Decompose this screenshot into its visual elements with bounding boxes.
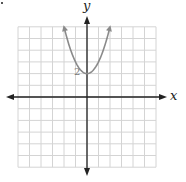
y-axis-label: y <box>83 0 90 13</box>
curve-right-arrow-icon <box>106 25 112 32</box>
curve-left-arrow-icon <box>62 25 68 32</box>
axes <box>6 16 167 176</box>
coordinate-plane <box>0 0 186 182</box>
vertex-label: 2 <box>74 66 80 77</box>
x-axis-left-arrow-icon <box>6 94 14 100</box>
y-axis-down-arrow-icon <box>84 168 90 176</box>
y-axis-up-arrow-icon <box>84 16 90 24</box>
x-axis-label: x <box>170 88 177 103</box>
x-axis-right-arrow-icon <box>159 94 167 100</box>
